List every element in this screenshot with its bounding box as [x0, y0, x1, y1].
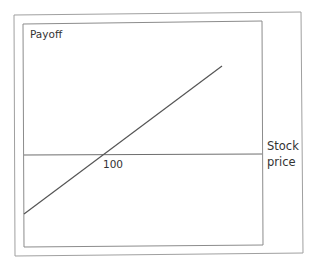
- plot-frame: [23, 21, 263, 247]
- outer-frame: [14, 12, 303, 256]
- x-axis-tick-100: 100: [103, 158, 123, 171]
- payoff-line: [24, 66, 222, 214]
- x-axis-line: [24, 154, 262, 155]
- payoff-diagram: Payoff 100 Stock price: [0, 0, 321, 262]
- y-axis-label: Payoff: [30, 28, 62, 41]
- x-axis-label: Stock price: [267, 138, 299, 170]
- x-axis-label-line2: price: [267, 154, 299, 170]
- x-axis-label-line1: Stock: [267, 138, 299, 154]
